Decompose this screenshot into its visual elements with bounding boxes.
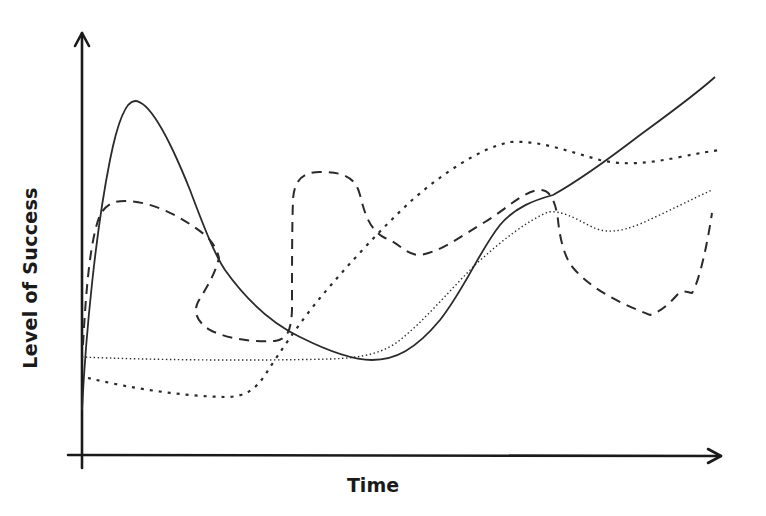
long-dashed-line-series	[83, 172, 712, 345]
fine-dotted-line-series	[82, 190, 712, 360]
axes	[68, 33, 721, 468]
line-chart	[0, 0, 766, 516]
x-axis-label: Time	[347, 474, 399, 496]
solid-line-series	[82, 77, 715, 410]
coarse-dotted-line-series	[88, 142, 720, 397]
x-axis-line	[68, 455, 721, 456]
y-axis-label: Level of Success	[19, 187, 41, 368]
plot-lines	[82, 77, 720, 410]
